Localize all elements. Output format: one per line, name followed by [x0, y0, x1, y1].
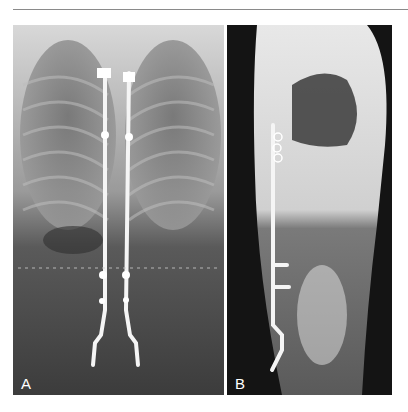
panel-label-a: A: [21, 376, 31, 391]
xray-panel-a: A: [13, 25, 224, 395]
lateral-xray-image: [227, 25, 392, 395]
panel-label-b: B: [235, 376, 245, 391]
xray-panel-b: B: [227, 25, 392, 395]
ap-xray-image: [13, 25, 224, 395]
top-rule: [13, 9, 408, 10]
